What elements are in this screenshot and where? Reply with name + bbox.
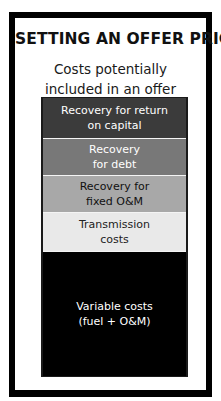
band-label-line-2: fixed O&M xyxy=(86,194,143,209)
band-return-on-capital: Recovery for return on capital xyxy=(43,98,186,139)
band-label-line-2: on capital xyxy=(87,118,141,133)
subtitle-line-2: included in an offer xyxy=(15,79,206,99)
band-variable-costs: Variable costs (fuel + O&M) xyxy=(43,252,186,376)
band-label-line-2: (fuel + O&M) xyxy=(78,314,150,329)
diagram-frame: SETTING AN OFFER PRICE Costs potentially… xyxy=(9,12,212,397)
cost-stack: Recovery for return on capital Recovery … xyxy=(41,97,188,377)
diagram-title: SETTING AN OFFER PRICE xyxy=(15,30,206,48)
band-label-line-1: Variable costs xyxy=(76,299,153,314)
band-fixed-om: Recovery for fixed O&M xyxy=(43,176,186,213)
band-label-line-1: Transmission xyxy=(79,217,150,232)
band-debt-recovery: Recovery for debt xyxy=(43,139,186,176)
diagram-subtitle: Costs potentially included in an offer xyxy=(15,59,206,99)
band-label-line-2: costs xyxy=(100,232,129,247)
band-label-line-1: Recovery for xyxy=(80,179,150,194)
band-transmission: Transmission costs xyxy=(43,213,186,252)
band-label-line-1: Recovery for return xyxy=(61,103,168,118)
band-label-line-2: for debt xyxy=(93,157,137,172)
band-label-line-1: Recovery xyxy=(89,142,140,157)
subtitle-line-1: Costs potentially xyxy=(15,59,206,79)
